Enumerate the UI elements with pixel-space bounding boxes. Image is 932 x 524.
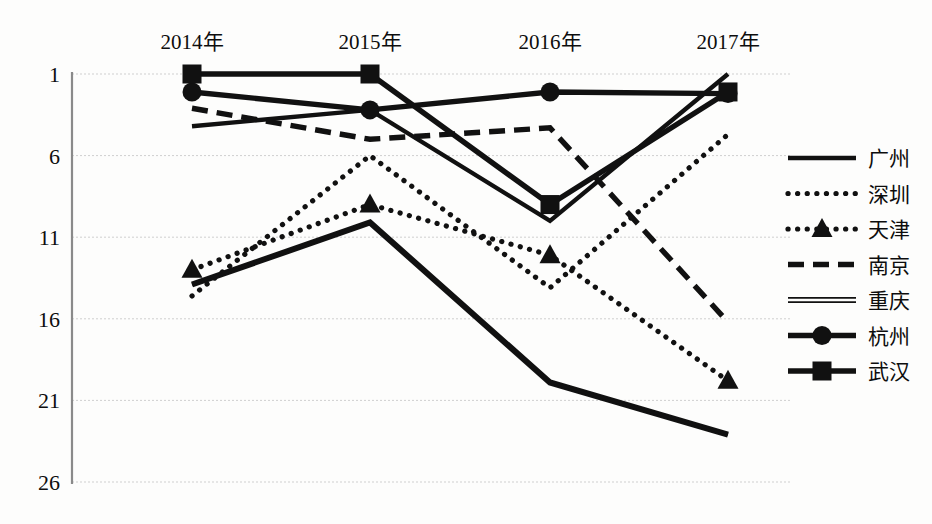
legend-item-label: 武汉: [868, 360, 910, 384]
legend-item-label: 重庆: [868, 289, 910, 313]
x-tick-label: 2016年: [519, 30, 582, 54]
legend-group: 广州深圳天津南京重庆杭州武汉: [788, 147, 910, 384]
data-point-circle-marker: [183, 82, 202, 101]
data-point-triangle-marker: [360, 194, 381, 213]
legend-item-chongqing[interactable]: 重庆: [788, 289, 910, 313]
series-line: [192, 134, 728, 296]
data-point-circle-marker: [541, 82, 560, 101]
series-杭州: [183, 82, 738, 119]
series-重庆: [192, 223, 728, 435]
series-深圳: [192, 134, 728, 296]
data-point-square-marker: [183, 65, 202, 84]
data-point-triangle-marker: [718, 370, 739, 389]
legend-item-hangzhou[interactable]: 杭州: [788, 325, 910, 349]
data-point-square-marker: [361, 65, 380, 84]
series-layer: [182, 65, 739, 435]
y-tick-labels-group: 1611162126: [38, 62, 60, 495]
data-point-circle-marker: [361, 100, 380, 119]
legend-item-label: 杭州: [868, 325, 910, 349]
series-天津: [182, 194, 739, 389]
legend-swatch-marker: [813, 362, 832, 381]
series-武汉: [183, 65, 738, 215]
series-广州: [192, 74, 728, 221]
legend-item-shenzhen[interactable]: 深圳: [788, 183, 910, 207]
series-line: [192, 74, 728, 221]
data-point-triangle-marker: [540, 244, 561, 263]
data-point-square-marker: [719, 82, 738, 101]
series-line-outer: [192, 223, 728, 435]
legend-swatch-marker: [813, 326, 832, 345]
y-tick-label: 21: [38, 388, 60, 413]
legend-item-label: 广州: [868, 147, 910, 171]
legend-item-nanjing[interactable]: 南京: [788, 254, 910, 278]
x-tick-labels-group: 2014年2015年2016年2017年: [161, 30, 760, 54]
x-tick-label: 2015年: [339, 30, 402, 54]
x-tick-label: 2017年: [697, 30, 760, 54]
series-line: [192, 92, 728, 110]
x-tick-label: 2014年: [161, 30, 224, 54]
legend-item-guangzhou[interactable]: 广州: [788, 147, 910, 171]
y-tick-label: 6: [49, 144, 60, 169]
legend-item-wuhan[interactable]: 武汉: [788, 360, 910, 384]
legend-item-tianjin[interactable]: 天津: [788, 218, 910, 242]
legend-item-label: 深圳: [868, 183, 910, 207]
legend-item-label: 天津: [868, 218, 910, 242]
data-point-square-marker: [541, 195, 560, 214]
y-tick-label: 11: [39, 225, 60, 250]
chart-canvas: 1611162126 2014年2015年2016年2017年 广州深圳天津南京…: [0, 0, 932, 524]
legend-item-label: 南京: [868, 254, 910, 278]
y-tick-label: 26: [38, 470, 60, 495]
y-tick-label: 16: [38, 307, 60, 332]
y-tick-label: 1: [49, 62, 60, 87]
rank-line-chart: 1611162126 2014年2015年2016年2017年 广州深圳天津南京…: [0, 0, 932, 524]
legend-swatch-marker: [812, 218, 833, 237]
